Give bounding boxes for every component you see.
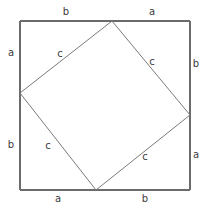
side-label-top-right-a: a <box>146 7 158 17</box>
figure-canvas <box>0 0 204 213</box>
inner-square-top-left-edge <box>20 21 112 93</box>
side-label-right-top-b: b <box>190 59 202 69</box>
side-label-left-bottom-b: b <box>5 140 17 150</box>
side-label-bottom-right-b: b <box>139 194 151 204</box>
outer-square <box>20 21 190 190</box>
hypotenuse-label-bottom-right-c: c <box>139 152 151 162</box>
side-label-right-bottom-a: a <box>190 150 202 160</box>
inner-square-bottom-left-edge <box>20 93 96 190</box>
hypotenuse-label-top-left-c: c <box>54 49 66 59</box>
side-label-left-top-a: a <box>5 48 17 58</box>
inner-square-top-right-edge <box>112 21 190 115</box>
hypotenuse-label-bottom-left-c: c <box>42 141 54 151</box>
side-label-top-left-b: b <box>60 7 72 17</box>
side-label-bottom-left-a: a <box>52 194 64 204</box>
geometry-figure: b a a b b a a b c c c c <box>0 0 204 213</box>
hypotenuse-label-top-right-c: c <box>146 57 158 67</box>
inner-tilted-square <box>20 21 190 190</box>
